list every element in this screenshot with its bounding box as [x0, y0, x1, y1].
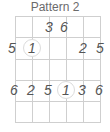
string-line [15, 16, 16, 123]
scale-degree-note: 2 [75, 40, 91, 56]
string-line [100, 16, 101, 123]
root-note: 1 [23, 39, 41, 57]
scale-degree-note: 6 [91, 82, 107, 98]
scale-degree-note: 5 [92, 40, 108, 56]
scale-degree-note: 3 [74, 82, 90, 98]
root-note: 1 [57, 81, 75, 99]
scale-degree-note: 2 [23, 82, 39, 98]
scale-degree-note: 3 [41, 19, 57, 35]
string-line [83, 16, 84, 123]
fret-line [15, 16, 101, 17]
fret-line [15, 101, 101, 102]
fret-line [15, 80, 101, 81]
fret-line [15, 122, 101, 123]
scale-degree-note: 5 [40, 82, 56, 98]
string-line [32, 16, 33, 123]
scale-degree-note: 5 [4, 40, 20, 56]
fret-line [15, 59, 101, 60]
scale-degree-note: 6 [6, 82, 22, 98]
scale-degree-note: 6 [56, 19, 72, 35]
fret-line [15, 37, 101, 38]
